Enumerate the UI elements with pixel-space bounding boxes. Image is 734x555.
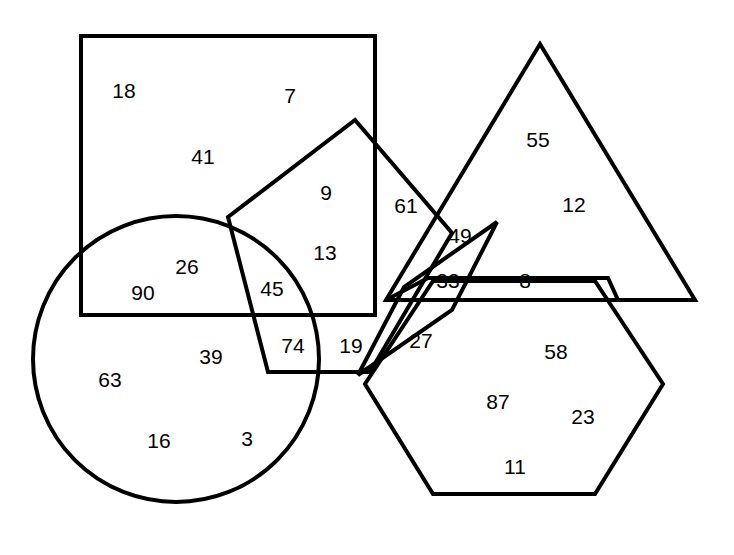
region-number: 33 <box>436 270 459 291</box>
region-number: 90 <box>131 282 154 303</box>
region-number: 87 <box>486 391 509 412</box>
region-number: 74 <box>281 335 304 356</box>
region-number: 58 <box>544 341 567 362</box>
region-number: 11 <box>504 456 526 477</box>
region-number: 61 <box>394 195 417 216</box>
region-number: 16 <box>147 430 170 451</box>
triangle-shape <box>386 44 695 300</box>
region-number: 39 <box>199 346 222 367</box>
region-number: 7 <box>284 85 296 106</box>
region-number: 63 <box>98 369 121 390</box>
shapes-canvas <box>0 0 734 555</box>
region-number: 45 <box>260 278 283 299</box>
region-number: 49 <box>448 225 471 246</box>
region-number: 18 <box>112 80 135 101</box>
region-number: 41 <box>191 146 214 167</box>
region-number: 8 <box>519 270 531 291</box>
shapes-figure: 1874191326904539741963163615512493382758… <box>0 0 734 555</box>
region-number: 13 <box>313 242 336 263</box>
shapes-group <box>33 36 695 502</box>
region-number: 23 <box>571 406 594 427</box>
region-number: 9 <box>320 182 332 203</box>
region-number: 12 <box>562 194 585 215</box>
region-number: 26 <box>175 256 198 277</box>
region-number: 55 <box>526 129 549 150</box>
region-number: 19 <box>339 335 362 356</box>
region-number: 27 <box>409 330 432 351</box>
region-number: 3 <box>241 428 253 449</box>
